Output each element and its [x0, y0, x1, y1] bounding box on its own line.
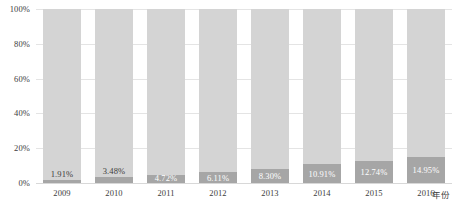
y-tick-label: 40%	[14, 108, 30, 118]
bar-group[interactable]: 10.91%	[303, 9, 341, 183]
bar-series: 1.91%3.48%4.72%6.11%8.30%10.91%12.74%14.…	[36, 9, 452, 183]
bar-group[interactable]: 12.74%	[355, 9, 393, 183]
bar-segment-lower[interactable]	[43, 180, 81, 183]
x-tick-label: 2014	[313, 188, 330, 198]
x-tick-label: 2010	[105, 188, 122, 198]
x-axis-title: 年份	[432, 188, 450, 200]
bar-value-label: 4.72%	[147, 173, 185, 183]
bar-value-label: 3.48%	[95, 166, 133, 176]
bar-value-label: 1.91%	[43, 169, 81, 179]
bar-group[interactable]: 6.11%	[199, 9, 237, 183]
y-axis: 0%20%40%60%80%100%	[0, 0, 34, 211]
bar-segment-upper[interactable]	[95, 9, 133, 177]
plot-area: 1.91%3.48%4.72%6.11%8.30%10.91%12.74%14.…	[36, 9, 452, 183]
y-tick-label: 20%	[14, 143, 30, 153]
bar-value-label: 6.11%	[199, 173, 237, 183]
x-tick-label: 2012	[209, 188, 226, 198]
bar-group[interactable]: 14.95%	[407, 9, 445, 183]
bar-group[interactable]: 1.91%	[43, 9, 81, 183]
bar-group[interactable]: 8.30%	[251, 9, 289, 183]
bar-segment-upper[interactable]	[303, 9, 341, 164]
y-tick-label: 100%	[10, 4, 30, 14]
x-tick-label: 2015	[365, 188, 382, 198]
y-tick-label: 0%	[18, 178, 30, 188]
axis-baseline	[36, 183, 452, 184]
bar-segment-upper[interactable]	[147, 9, 185, 175]
bar-segment-upper[interactable]	[251, 9, 289, 169]
y-tick-label: 60%	[14, 74, 30, 84]
stacked-bar-chart: 0%20%40%60%80%100% 1.91%3.48%4.72%6.11%8…	[0, 0, 462, 211]
x-tick-label: 2013	[261, 188, 278, 198]
bar-segment-lower[interactable]	[95, 177, 133, 183]
x-tick-label: 2011	[157, 188, 174, 198]
bar-segment-upper[interactable]	[355, 9, 393, 161]
bar-group[interactable]: 4.72%	[147, 9, 185, 183]
bar-value-label: 14.95%	[407, 165, 445, 175]
bar-group[interactable]: 3.48%	[95, 9, 133, 183]
bar-value-label: 10.91%	[303, 169, 341, 179]
bar-segment-upper[interactable]	[43, 9, 81, 180]
bar-value-label: 12.74%	[355, 167, 393, 177]
bar-segment-upper[interactable]	[407, 9, 445, 157]
x-axis: 20092010201120122013201420152016	[36, 186, 452, 211]
x-tick-label: 2009	[53, 188, 70, 198]
y-tick-label: 80%	[14, 39, 30, 49]
bar-segment-upper[interactable]	[199, 9, 237, 172]
bar-value-label: 8.30%	[251, 171, 289, 181]
